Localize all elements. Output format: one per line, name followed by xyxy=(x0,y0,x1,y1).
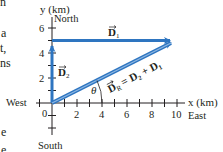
angle-arc xyxy=(97,81,102,104)
svg-text:1: 1 xyxy=(116,32,120,40)
label-d1: D 1 xyxy=(108,26,120,41)
svg-text:= D₂ + D₁: = D₂ + D₁ xyxy=(119,58,163,88)
west-label: West xyxy=(6,97,27,108)
y-tick-label: 4 xyxy=(39,48,45,59)
x-tick-label: 4 xyxy=(99,109,105,120)
y-tick-label: 2 xyxy=(39,73,44,84)
east-label: East xyxy=(188,110,206,121)
origin-label: 0 xyxy=(42,108,47,119)
label-d2: D 2 xyxy=(58,66,70,81)
angle-theta: θ xyxy=(91,84,97,96)
vector-diagram: θ y (km) North x (km) East West South 0 … xyxy=(0,0,223,152)
north-label: North xyxy=(54,13,79,24)
x-tick-label: 10 xyxy=(171,109,182,120)
x-tick-label: 2 xyxy=(74,109,79,120)
x-axis-label: x (km) xyxy=(188,96,218,109)
x-tick-label: 8 xyxy=(149,109,154,120)
south-label: South xyxy=(38,140,63,151)
x-tick-label: 6 xyxy=(124,109,129,120)
y-tick-label: 6 xyxy=(39,23,44,34)
svg-text:2: 2 xyxy=(66,72,70,80)
